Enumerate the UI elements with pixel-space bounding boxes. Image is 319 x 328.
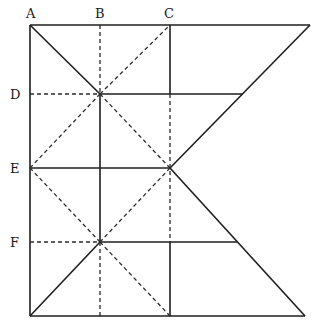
label-b: B	[95, 6, 105, 21]
label-f: F	[10, 235, 19, 250]
diag-bd-to-ce	[100, 94, 170, 168]
geometry-diagram: A B C D E F	[0, 0, 319, 328]
diag-bf-to-cbottom	[100, 242, 170, 316]
diag-bd-to-c	[100, 25, 170, 94]
label-a: A	[25, 6, 36, 21]
label-e: E	[10, 161, 20, 176]
label-d: D	[10, 87, 20, 102]
diag-ce-to-bf	[100, 168, 170, 242]
right-upper-slant	[170, 25, 310, 168]
diag-a-to-bd	[30, 25, 100, 94]
label-c: C	[164, 6, 174, 21]
diag-e-to-bf	[30, 168, 100, 242]
diag-e-to-bd	[30, 94, 100, 168]
diag-bottomleft-to-bf	[30, 242, 100, 316]
